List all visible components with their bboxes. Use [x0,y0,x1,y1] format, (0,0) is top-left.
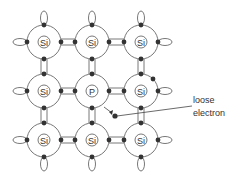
silicon-lattice-diagram: SiSiSiSiPSiSiSiSi loose electron [0,0,242,187]
electron [42,155,47,160]
electron [42,106,47,111]
electron [59,89,64,94]
atom-symbol: Si [40,136,48,146]
lattice: SiSiSiSiPSiSiSiSi [13,11,172,171]
electron [90,121,95,126]
electron [73,138,78,143]
electron [107,89,112,94]
annotation-leader-line [117,106,192,116]
electron [122,138,127,143]
electron [42,121,47,126]
atom-symbol: Si [137,136,145,146]
electron [139,121,144,126]
electron [90,23,95,28]
annotation-line-1: loose [193,95,215,105]
electron [59,138,64,143]
electron [42,23,47,28]
electron [90,72,95,77]
electron [122,89,127,94]
atom-symbol: Si [137,87,145,97]
atom-symbol: Si [88,136,96,146]
annotation-line-2: electron [193,108,225,118]
electron [90,57,95,62]
electron [42,57,47,62]
electron [42,72,47,77]
electron [139,57,144,62]
electron [25,89,30,94]
electron [156,138,161,143]
electron [90,106,95,111]
atom-symbol: Si [88,38,96,48]
electron [59,40,64,45]
atom-symbol: Si [40,38,48,48]
atom-symbol: Si [40,87,48,97]
atom-symbol: Si [137,38,145,48]
electron [156,40,161,45]
atom-symbol: P [89,87,95,97]
electron [139,155,144,160]
electron [25,138,30,143]
extra-electron [151,77,156,82]
electron [122,40,127,45]
electron [90,155,95,160]
electron [139,23,144,28]
electron [25,40,30,45]
electron [156,89,161,94]
electron [73,40,78,45]
electron [73,89,78,94]
electron [139,72,144,77]
electron [107,138,112,143]
electron [139,106,144,111]
electron [107,40,112,45]
loose-electron [112,113,117,118]
